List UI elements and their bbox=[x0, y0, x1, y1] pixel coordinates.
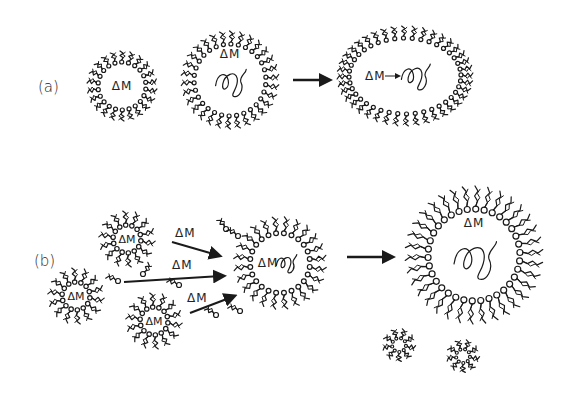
surfactant-molecule bbox=[115, 250, 125, 266]
surfactant-molecule bbox=[138, 229, 153, 237]
panel-b-label: (b) bbox=[34, 252, 55, 270]
surfactant-molecule bbox=[139, 239, 156, 246]
surfactant-molecule bbox=[337, 74, 351, 79]
surfactant-molecule bbox=[74, 308, 80, 324]
surfactant-molecule bbox=[486, 295, 498, 319]
surfactant-molecule bbox=[450, 190, 462, 214]
surfactant-molecule bbox=[81, 306, 92, 321]
surfactant-molecule bbox=[307, 255, 325, 261]
surfactant-molecule bbox=[459, 79, 473, 86]
surfactant-molecule bbox=[459, 73, 473, 78]
surfactant-molecule bbox=[364, 105, 375, 118]
surfactant-molecule bbox=[454, 90, 468, 100]
surfactant-molecule bbox=[507, 281, 529, 299]
surfactant-molecule bbox=[460, 361, 465, 372]
surfactant-molecule bbox=[187, 52, 201, 63]
surfactant-molecule bbox=[141, 262, 152, 276]
panel-a-micelles: ΔMΔM bbox=[87, 31, 279, 129]
surfactant-molecule bbox=[126, 52, 134, 65]
am-label: ΔM bbox=[258, 256, 279, 270]
surfactant-molecule bbox=[437, 104, 448, 116]
surfactant-molecule bbox=[225, 114, 231, 129]
panel-b-empty-micelles bbox=[383, 329, 479, 373]
panel-a-merged-micelle: ΔM bbox=[337, 26, 473, 126]
surfactant-molecule bbox=[261, 221, 271, 238]
surfactant-molecule bbox=[166, 321, 183, 328]
reverse-micelle: ΔM bbox=[99, 211, 155, 267]
surfactant-molecule bbox=[371, 32, 380, 45]
surfactant-molecule bbox=[383, 344, 393, 350]
surfactant-molecule bbox=[137, 244, 152, 256]
surfactant-molecule bbox=[262, 90, 277, 99]
surfactant-molecule bbox=[481, 187, 492, 213]
surfactant-molecule bbox=[150, 293, 156, 309]
reverse-micelle bbox=[447, 340, 479, 373]
surfactant-molecule bbox=[260, 288, 271, 306]
surfactant-molecule bbox=[128, 323, 143, 331]
surfactant-molecule bbox=[419, 28, 427, 42]
surfactant-molecule bbox=[458, 65, 472, 71]
surfactant-molecule bbox=[468, 298, 475, 324]
surfactant-molecule bbox=[260, 55, 274, 65]
surfactant-molecule bbox=[144, 87, 157, 94]
surfactant-molecule bbox=[511, 274, 535, 290]
reverse-micelle: ΔM bbox=[181, 31, 279, 129]
surfactant-molecule bbox=[157, 294, 167, 310]
surfactant-molecule bbox=[130, 304, 145, 316]
surfactant-molecule bbox=[289, 220, 300, 238]
surfactant-molecule bbox=[401, 26, 406, 40]
surfactant-molecule bbox=[305, 272, 323, 283]
surfactant-molecule bbox=[264, 83, 279, 90]
surfactant-molecule bbox=[387, 349, 396, 359]
reverse-micelle bbox=[383, 329, 415, 362]
surfactant-molecule bbox=[517, 249, 543, 255]
panel-b-growing-micelle: ΔM bbox=[234, 217, 326, 309]
surfactant-molecule bbox=[410, 26, 417, 40]
reverse-micelle: ΔM bbox=[87, 51, 157, 121]
surfactant-molecule bbox=[228, 304, 243, 314]
surfactant-molecule bbox=[400, 329, 407, 340]
surfactant-molecule bbox=[111, 215, 122, 230]
am-label: ΔM bbox=[365, 69, 386, 83]
surfactant-molecule bbox=[234, 265, 252, 271]
surfactant-molecule bbox=[455, 341, 462, 352]
surfactant-molecule bbox=[456, 297, 467, 323]
surfactant-molecule bbox=[393, 112, 400, 126]
surfactant-molecule bbox=[234, 254, 253, 262]
surfactant-molecule bbox=[164, 326, 179, 338]
surfactant-molecule bbox=[101, 104, 111, 116]
surfactant-molecule bbox=[425, 285, 445, 305]
surfactant-molecule bbox=[457, 85, 471, 93]
surfactant-molecule bbox=[339, 59, 353, 67]
surfactant-molecule bbox=[451, 360, 460, 370]
surfactant-molecule bbox=[217, 218, 229, 231]
reverse-micelle bbox=[405, 186, 543, 324]
surfactant-molecule bbox=[248, 108, 259, 121]
surfactant-molecule bbox=[448, 346, 459, 354]
surfactant-molecule bbox=[362, 35, 373, 47]
surfactant-molecule bbox=[110, 53, 117, 65]
surfactant-molecule bbox=[119, 108, 125, 121]
surfactant-molecule bbox=[412, 271, 435, 285]
surfactant-molecule bbox=[337, 66, 351, 73]
surfactant-molecule bbox=[517, 258, 543, 267]
polymer-chain-icon bbox=[454, 242, 497, 280]
surfactant-molecule bbox=[338, 81, 352, 87]
reverse-micelle bbox=[337, 26, 473, 126]
surfactant-molecule bbox=[236, 32, 244, 47]
surfactant-molecule bbox=[435, 34, 446, 47]
surfactant-molecule bbox=[427, 30, 437, 43]
arrow-label: ΔM bbox=[175, 226, 196, 240]
surfactant-molecule bbox=[405, 243, 431, 252]
surfactant-molecule bbox=[89, 69, 102, 78]
panel-a: (a) ΔMΔM ΔM bbox=[38, 26, 473, 129]
surfactant-molecule bbox=[87, 286, 102, 294]
am-label: ΔM bbox=[112, 79, 133, 93]
polymer-chain-icon bbox=[401, 64, 430, 90]
surfactant-molecule bbox=[263, 65, 277, 72]
surfactant-molecule bbox=[464, 340, 471, 351]
surfactant-molecule bbox=[159, 331, 170, 346]
surfactant-molecule bbox=[413, 111, 419, 125]
surfactant-molecule bbox=[101, 56, 110, 68]
surfactant-molecule bbox=[447, 355, 457, 361]
